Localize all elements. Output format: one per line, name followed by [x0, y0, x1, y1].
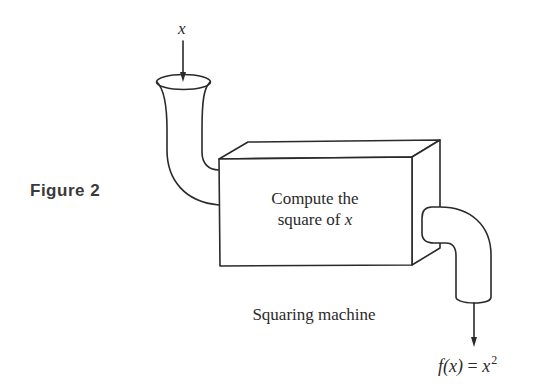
caption: Squaring machine	[252, 305, 375, 324]
box-text-line-2-prefix: square of	[278, 210, 345, 229]
output-label: f(x) = x2	[438, 353, 497, 377]
output-label-eq: =	[463, 356, 482, 376]
box-text-line-2: square of x	[278, 210, 353, 229]
output-elbow-pipe	[422, 207, 491, 303]
output-label-fx: f(x)	[438, 356, 463, 377]
box-text-line-1: Compute the	[271, 189, 358, 208]
squaring-machine-diagram: x Compute the square of x Squaring machi…	[0, 0, 545, 392]
output-label-x: x	[481, 356, 490, 376]
output-label-exponent: 2	[491, 353, 497, 367]
input-arrow-icon	[180, 41, 186, 82]
box-text-line-2-var: x	[344, 210, 353, 229]
input-funnel-pipe	[157, 75, 220, 206]
output-arrow-icon	[471, 303, 477, 347]
input-label: x	[177, 19, 186, 38]
